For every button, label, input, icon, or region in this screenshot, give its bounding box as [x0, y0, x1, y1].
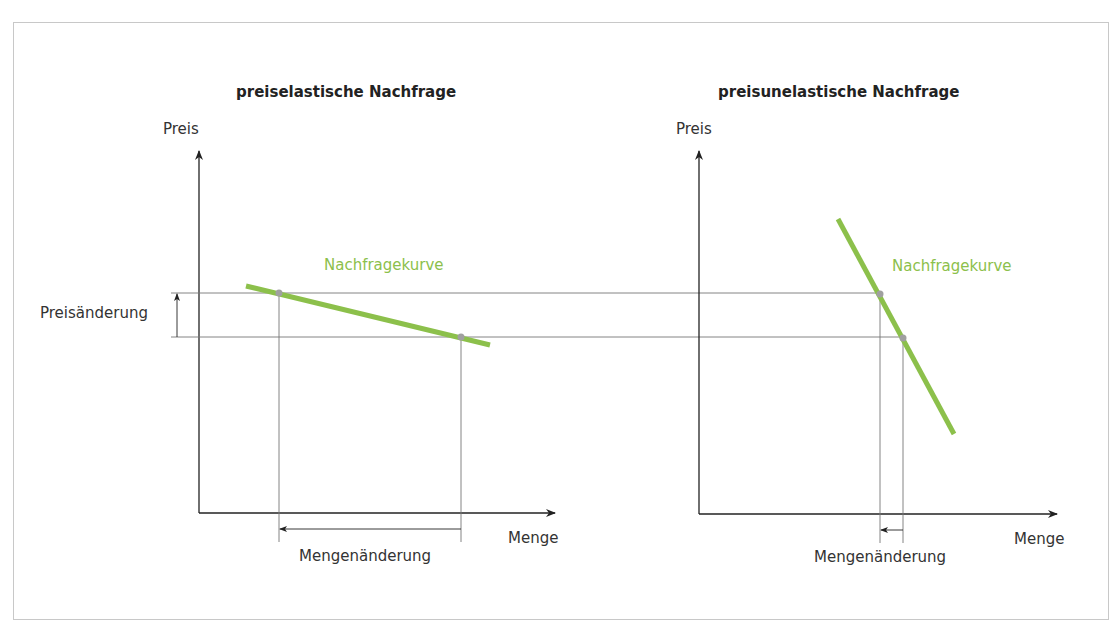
left-y-axis-label: Preis — [163, 120, 199, 138]
right-chart-title: preisunelastische Nachfrage — [718, 83, 960, 101]
right-y-axis-label: Preis — [676, 120, 712, 138]
left-point-2 — [458, 334, 465, 341]
left-quantity-change-label: Mengenänderung — [299, 547, 431, 565]
right-quantity-change-label: Mengenänderung — [814, 548, 946, 566]
left-chart-title: preiselastische Nachfrage — [236, 83, 456, 101]
elasticity-diagram: preiselastische Nachfrage Preis Menge Pr… — [0, 0, 1118, 639]
inelastic-demand-curve — [838, 219, 954, 434]
left-x-axis-label: Menge — [508, 529, 558, 547]
elastic-demand-curve — [246, 286, 490, 345]
price-change-label: Preisänderung — [40, 304, 148, 322]
left-curve-label: Nachfragekurve — [324, 256, 444, 274]
right-curve-label: Nachfragekurve — [892, 257, 1012, 275]
right-chart: preisunelastische Nachfrage Preis Menge … — [676, 83, 1064, 566]
right-point-2 — [900, 335, 907, 342]
left-point-1 — [276, 290, 283, 297]
right-x-axis-label: Menge — [1014, 530, 1064, 548]
left-chart: preiselastische Nachfrage Preis Menge Pr… — [40, 83, 903, 565]
right-point-1 — [877, 291, 884, 298]
